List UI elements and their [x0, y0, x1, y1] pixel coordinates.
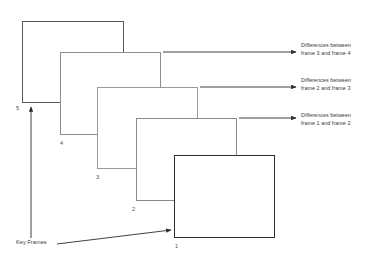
difference-label-3-4-line1: Differences between	[301, 41, 351, 49]
difference-label-1-2-line1: Differences between	[301, 111, 351, 119]
difference-label-2-3-line1: Differences between	[301, 76, 351, 84]
difference-label-3-4-line2: frame 3 and frame 4	[301, 49, 351, 57]
difference-label-1-2: Differences between frame 1 and frame 2	[301, 111, 351, 128]
key-frames-label: Key Frames	[16, 240, 47, 246]
difference-label-2-3: Differences between frame 2 and frame 3	[301, 76, 351, 93]
difference-label-2-3-line2: frame 2 and frame 3	[301, 84, 351, 92]
difference-label-1-2-line2: frame 1 and frame 2	[301, 119, 351, 127]
arrow-key-frames	[57, 230, 171, 244]
difference-label-3-4: Differences between frame 3 and frame 4	[301, 41, 351, 58]
connector-arrows	[0, 0, 371, 262]
diagram-canvas: 5 4 3 2 1 Differences between frame 3 an…	[0, 0, 371, 262]
